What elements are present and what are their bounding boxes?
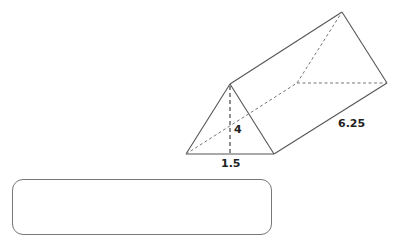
answer-box[interactable] <box>12 179 272 235</box>
hidden-back-left-edge <box>297 12 342 83</box>
front-left-edge <box>186 84 230 154</box>
back-right-edge <box>342 12 387 83</box>
length-label: 6.25 <box>338 118 365 129</box>
bottom-right-edge <box>274 83 387 154</box>
height-label: 4 <box>234 124 242 135</box>
top-ridge-edge <box>230 12 342 84</box>
base-label: 1.5 <box>221 158 241 169</box>
front-right-edge <box>230 84 274 154</box>
hidden-bottom-left-edge <box>186 83 297 154</box>
